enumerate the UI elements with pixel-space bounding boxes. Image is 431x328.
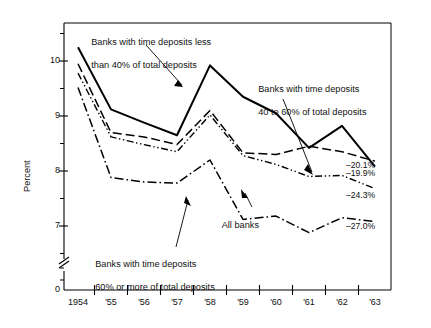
y-tick-label: 8 bbox=[40, 165, 60, 175]
y-tick-label: 10 bbox=[40, 55, 60, 65]
x-tick-label: '62 bbox=[324, 297, 360, 307]
leader-arrow-upper-right bbox=[304, 164, 313, 175]
annotation-line-2: than 40% of total deposits bbox=[91, 60, 197, 70]
y-tick-label: 9 bbox=[40, 110, 60, 120]
annotation-line-1: Banks with time deposits bbox=[258, 84, 359, 94]
annotation-less-than-40: Banks with time deposits less than 40% o… bbox=[81, 26, 211, 83]
annotation-line-2: 60% or more of total deposits bbox=[95, 282, 215, 292]
annotation-40-to-60: Banks with time deposits 40 to 60% of to… bbox=[248, 73, 367, 130]
x-tick-label: '63 bbox=[357, 297, 393, 307]
y-tick-label-zero: 0 bbox=[40, 284, 60, 294]
x-tick-label: '57 bbox=[159, 297, 195, 307]
series-end-label-3: –27.0% bbox=[346, 221, 375, 231]
series-end-label-2: –24.3% bbox=[346, 190, 375, 200]
x-tick-label: '60 bbox=[258, 297, 294, 307]
y-axis-title: Percent bbox=[22, 160, 32, 192]
annotation-line-1: Banks with time deposits less bbox=[91, 37, 211, 47]
x-tick-label: '55 bbox=[93, 297, 129, 307]
x-tick-label: 1954 bbox=[60, 297, 96, 307]
annotation-line-1: Banks with time deposits bbox=[95, 259, 196, 269]
chart-figure: Percent Banks with time deposits less th… bbox=[0, 0, 431, 328]
x-tick-label: '58 bbox=[192, 297, 228, 307]
annotation-all-banks: All banks bbox=[212, 209, 259, 243]
series-end-label-1: –20.1% bbox=[346, 160, 375, 170]
x-tick-label: '59 bbox=[225, 297, 261, 307]
leader-arrow-lower-left bbox=[184, 196, 191, 206]
x-tick-label: '56 bbox=[126, 297, 162, 307]
leader-line-lower-left bbox=[176, 200, 188, 247]
annotation-line-1: All banks bbox=[222, 220, 259, 230]
y-tick-label: 7 bbox=[40, 220, 60, 230]
x-tick-label: '61 bbox=[291, 297, 327, 307]
leader-line-all-banks bbox=[245, 193, 252, 207]
annotation-line-2: 40 to 60% of total deposits bbox=[258, 107, 366, 117]
